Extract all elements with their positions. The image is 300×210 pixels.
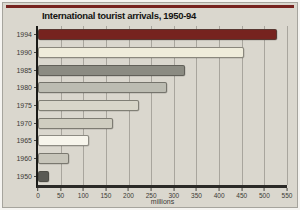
x-tick-mark-450 [241, 188, 242, 191]
chart-title: International tourist arrivals, 1950-94 [42, 10, 196, 21]
x-tick-mark-250 [151, 188, 152, 191]
y-label-row-1975: 1975 [3, 97, 37, 115]
y-label-1985: 1985 [16, 67, 32, 74]
gridline-550 [287, 26, 288, 185]
bar-row-1980 [38, 79, 287, 97]
y-label-1950: 1950 [16, 173, 32, 180]
x-tick-mark-400 [219, 188, 220, 191]
y-label-1980: 1980 [16, 84, 32, 91]
bar-1980 [38, 82, 167, 93]
bar-row-1960 [38, 150, 287, 168]
x-tick-mark-50 [60, 188, 61, 191]
x-tick-mark-550 [286, 188, 287, 191]
bar-row-1970 [38, 114, 287, 132]
y-label-row-1990: 1990 [3, 44, 37, 62]
x-axis-title: millions [38, 198, 287, 205]
y-axis-labels: 199419901985198019751970196519601950 [3, 26, 37, 185]
plot-area [38, 26, 287, 185]
top-accent-rule [6, 5, 294, 8]
plot-frame [36, 26, 287, 188]
x-tick-mark-200 [128, 188, 129, 191]
x-tick-mark-500 [264, 188, 265, 191]
y-label-row-1994: 1994 [3, 26, 37, 44]
y-label-row-1970: 1970 [3, 114, 37, 132]
bar-1950 [38, 171, 49, 182]
x-tick-mark-350 [196, 188, 197, 191]
x-tick-mark-100 [83, 188, 84, 191]
bar-1990 [38, 47, 244, 58]
bar-1994 [38, 29, 277, 40]
bar-row-1990 [38, 44, 287, 62]
y-label-row-1960: 1960 [3, 150, 37, 168]
y-label-1994: 1994 [16, 31, 32, 38]
bar-1965 [38, 135, 89, 146]
bar-row-1950 [38, 167, 287, 185]
x-tick-mark-150 [105, 188, 106, 191]
bar-1970 [38, 118, 113, 129]
chart-panel: International tourist arrivals, 1950-94 … [2, 2, 298, 208]
y-label-row-1985: 1985 [3, 61, 37, 79]
bar-row-1994 [38, 26, 287, 44]
bar-1985 [38, 65, 185, 76]
y-label-row-1965: 1965 [3, 132, 37, 150]
y-label-1960: 1960 [16, 155, 32, 162]
y-label-1975: 1975 [16, 102, 32, 109]
bar-row-1965 [38, 132, 287, 150]
y-label-row-1950: 1950 [3, 167, 37, 185]
chart-figure: International tourist arrivals, 1950-94 … [0, 0, 300, 210]
x-tick-mark-0 [38, 188, 39, 191]
x-tick-mark-300 [173, 188, 174, 191]
bar-row-1985 [38, 61, 287, 79]
bar-1960 [38, 153, 69, 164]
bars [38, 26, 287, 185]
y-label-1990: 1990 [16, 49, 32, 56]
bar-1975 [38, 100, 139, 111]
y-label-1965: 1965 [16, 137, 32, 144]
y-label-1970: 1970 [16, 120, 32, 127]
y-label-row-1980: 1980 [3, 79, 37, 97]
bar-row-1975 [38, 97, 287, 115]
